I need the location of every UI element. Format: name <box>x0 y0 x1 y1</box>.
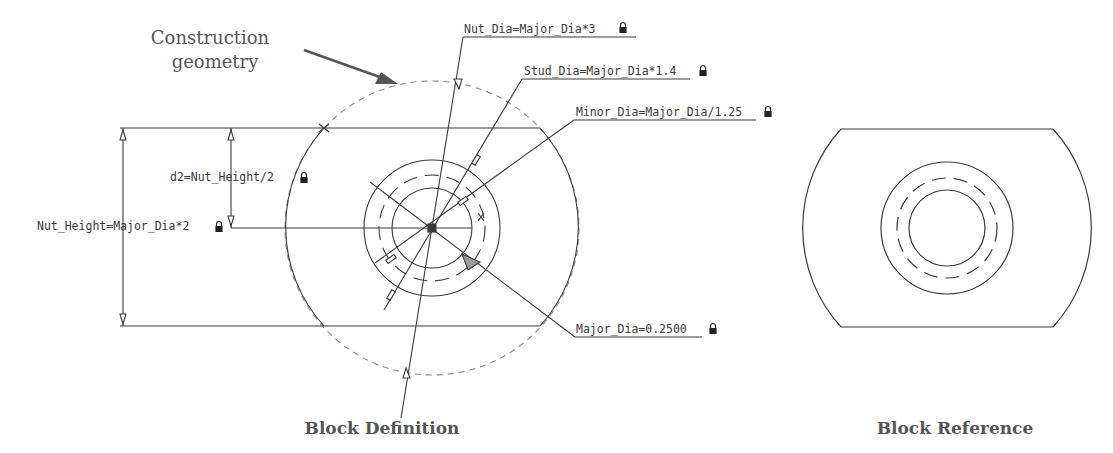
lock-icon <box>300 173 307 184</box>
ref-nut-left-arc <box>803 129 841 327</box>
lock-icon <box>709 324 716 335</box>
param-nut-dia: Nut_Dia=Major_Dia*3 <box>464 22 596 36</box>
callout-line-1: Construction <box>151 27 270 48</box>
dim-arrow-icon <box>228 216 234 226</box>
stud-dia-dim-line <box>384 79 522 310</box>
callout-line-2: geometry <box>172 51 260 72</box>
dim-arrow-icon <box>387 290 396 301</box>
ref-thread-dashed-circle <box>897 178 997 278</box>
ref-stud-circle <box>881 162 1013 294</box>
nut-left-arc <box>286 128 324 326</box>
dim-arrow-icon <box>120 314 126 324</box>
minor-dia-dim-line <box>375 120 574 263</box>
dim-arrow-icon <box>228 130 234 140</box>
dim-arrow-icon <box>458 196 468 205</box>
block-reference <box>803 129 1092 327</box>
callout-arrow-shaft <box>304 50 388 80</box>
param-minor-dia: Minor_Dia=Major_Dia/1.25 <box>576 105 742 119</box>
parameter-labels: Nut_Dia=Major_Dia*3 Stud_Dia=Major_Dia*1… <box>37 22 772 336</box>
block-definition <box>120 37 756 418</box>
lock-icon <box>619 23 626 34</box>
cad-diagram: Construction geometry <box>0 0 1113 453</box>
param-stud-dia: Stud_Dia=Major_Dia*1.4 <box>524 64 676 78</box>
lock-icon <box>699 66 706 77</box>
caption-block-definition: Block Definition <box>305 418 460 438</box>
ref-minor-circle <box>909 190 985 266</box>
lock-icon <box>215 222 222 233</box>
param-major-dia: Major_Dia=0.2500 <box>576 322 687 336</box>
dim-arrow-icon <box>120 130 126 140</box>
lock-icon <box>764 107 771 118</box>
construction-geometry-callout: Construction geometry <box>151 27 398 84</box>
param-d2: d2=Nut_Height/2 <box>170 170 274 184</box>
param-nut-height: Nut_Height=Major_Dia*2 <box>37 219 189 233</box>
caption-block-reference: Block Reference <box>877 418 1034 438</box>
callout-arrow-head-icon <box>375 72 398 84</box>
grip-marker-icon <box>478 213 484 221</box>
nut-right-arc <box>540 128 578 326</box>
ref-nut-right-arc <box>1053 129 1091 327</box>
